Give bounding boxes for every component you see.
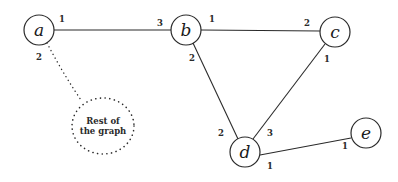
edge-d-e — [260, 138, 351, 155]
node-a: a — [24, 15, 54, 45]
port-label-d-2: 2 — [218, 128, 224, 138]
edge-c-d — [253, 44, 325, 139]
rest-of-graph-node: Rest of the graph — [72, 98, 134, 154]
port-label-b-2: 2 — [189, 53, 195, 63]
node-b: b — [171, 15, 201, 45]
node-b-label: b — [181, 20, 192, 40]
node-c: c — [320, 17, 350, 47]
port-label-b-3: 3 — [157, 18, 163, 28]
node-a-label: a — [34, 20, 44, 40]
port-label-d-3: 3 — [267, 128, 273, 138]
node-e: e — [351, 118, 381, 148]
port-label-d-1: 1 — [267, 161, 273, 171]
graph-diagram: Rest of the graph a b c d e 1 2 3 1 2 2 … — [0, 0, 398, 182]
rest-of-graph-label-line2: the graph — [80, 126, 127, 136]
port-label-a-1: 1 — [59, 14, 65, 24]
port-label-c-1: 1 — [324, 54, 330, 64]
edge-b-d — [193, 43, 238, 139]
node-d-label: d — [240, 142, 251, 162]
edge-b-c — [201, 30, 320, 31]
node-e-label: e — [361, 123, 371, 143]
rest-of-graph-label-line1: Rest of — [86, 116, 121, 126]
dotted-edge-a-rest — [47, 43, 81, 100]
port-label-e-1: 1 — [342, 141, 348, 151]
node-c-label: c — [330, 22, 340, 42]
port-label-b-1: 1 — [209, 14, 215, 24]
port-label-a-2: 2 — [36, 52, 42, 62]
node-d: d — [230, 137, 260, 167]
port-label-c-2: 2 — [304, 18, 310, 28]
